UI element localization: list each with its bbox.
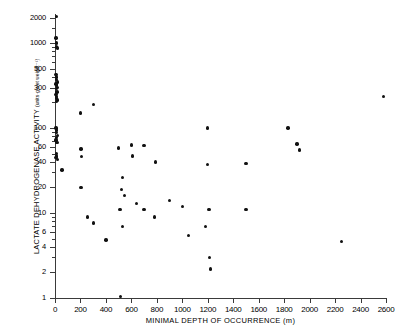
y-axis-title-text: LACTATE DEHYDROGENASE ACTIVITY [32,109,41,254]
data-point [79,186,82,189]
data-point [142,144,145,147]
data-point [206,126,209,129]
data-point [120,188,123,191]
y-minor-tick [52,257,55,258]
y-axis-title: LACTATE DEHYDROGENASE ACTIVITY (units·g … [32,37,41,277]
x-tick-200 [80,298,81,303]
x-tick-1800 [284,298,285,303]
y-minor-tick [52,217,55,218]
y-tick-2000 [50,18,55,19]
y-tick-40 [50,162,55,163]
scatter-plot-figure: 12461020406010030050010002000 0200400600… [0,0,410,333]
data-point [206,163,209,166]
data-point [286,126,289,129]
x-tick-1200 [208,298,209,303]
data-point [207,208,210,211]
y-minor-tick [52,56,55,57]
y-tick-60 [50,147,55,148]
y-minor-tick [52,226,55,227]
data-point [56,158,59,161]
x-axis-title: MINIMAL DEPTH OF OCCURRENCE (m) [55,316,386,325]
y-minor-tick [52,62,55,63]
data-point [80,155,83,158]
y-tick-4 [50,247,55,248]
y-minor-tick [52,172,55,173]
x-tick-1400 [233,298,234,303]
data-point [55,100,58,103]
y-tick-500 [50,69,55,70]
data-point [130,143,133,146]
data-point [135,202,138,205]
y-minor-tick [52,51,55,52]
x-tick-label-2600: 2600 [366,305,406,314]
data-point [55,41,58,44]
y-tick-label-2000: 2000 [4,14,46,22]
data-point [295,142,298,145]
data-point [181,205,184,208]
data-point [121,176,124,179]
x-tick-1000 [182,298,183,303]
data-point [117,146,120,149]
data-point [244,162,247,165]
data-point [154,160,157,163]
y-minor-tick [52,28,55,29]
y-minor-tick [52,221,55,222]
data-point [131,154,134,157]
data-point [123,194,126,197]
data-point [86,215,89,218]
x-axis-line [55,298,386,299]
x-tick-0 [55,298,56,303]
data-point [244,208,247,211]
y-tick-6 [50,232,55,233]
data-point [104,238,107,241]
y-tick-2 [50,272,55,273]
data-point [92,221,95,224]
data-point [298,148,301,151]
x-tick-1600 [259,298,260,303]
y-tick-10 [50,213,55,214]
y-minor-tick [52,239,55,240]
x-tick-400 [106,298,107,303]
data-point [187,234,190,237]
data-point [382,95,385,98]
data-point [79,147,82,150]
data-point [54,36,57,39]
data-point [121,225,124,228]
data-point [55,15,58,18]
x-tick-600 [131,298,132,303]
x-tick-2600 [386,298,387,303]
data-point [340,240,343,243]
data-point [153,215,156,218]
y-tick-label-1: 1 [4,294,46,302]
data-point [56,46,59,49]
x-tick-2200 [335,298,336,303]
data-point [55,141,58,144]
data-point [60,168,63,171]
x-tick-2400 [361,298,362,303]
y-axis-units: (units·g wet weight⁻¹) [34,59,40,107]
data-point [209,267,212,270]
data-point [92,103,95,106]
data-point [208,256,211,259]
data-point [118,208,121,211]
data-point [204,225,207,228]
y-tick-20 [50,187,55,188]
data-point [142,208,145,211]
data-point [168,199,171,202]
data-point [79,111,82,114]
x-tick-2000 [310,298,311,303]
x-tick-800 [157,298,158,303]
